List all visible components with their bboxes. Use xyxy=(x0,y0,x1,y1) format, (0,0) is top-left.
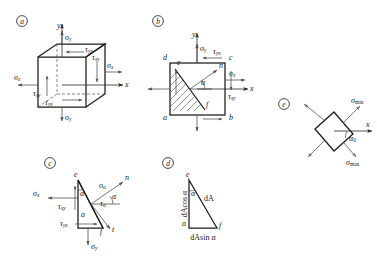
panel-c-tag-label: c xyxy=(48,159,52,168)
sigma-x-label-c: σx xyxy=(33,189,40,198)
panel-c: c e a f α n α σα t τα xyxy=(33,158,129,251)
tau-xy-left-label-a: τxy xyxy=(33,89,41,98)
panel-d-tag: d xyxy=(163,158,174,169)
vertex-c-label-b: c xyxy=(229,53,233,62)
tau-yx-bottom-label-a: τyx xyxy=(45,98,53,107)
tau-yx-top-label-b: τyx xyxy=(213,47,221,56)
principal-stress-element xyxy=(315,112,353,151)
sigma-x-right-label-b: σx xyxy=(229,69,236,78)
hatching-b xyxy=(171,72,201,111)
sigma-x-right-label-a: σx xyxy=(107,61,114,70)
stress-element-figure: a y x σy σy xyxy=(0,0,377,265)
vertical-area-label-d: dAcos α xyxy=(180,190,189,217)
sigma-max-arrow-e xyxy=(344,143,356,157)
sigma-min-arrow-opposite-e xyxy=(308,141,324,157)
vertex-b-label-b: b xyxy=(229,113,233,122)
alpha0-label-e: α0 xyxy=(349,134,356,143)
inclined-section-ef xyxy=(175,69,205,110)
axis-y-label-a: y xyxy=(56,21,61,30)
horizontal-area-label-d: dAsin α xyxy=(190,233,216,242)
hypotenuse-area-label-d: dA xyxy=(204,194,214,203)
vertex-e-label-b: e xyxy=(177,58,181,67)
alpha-face-label-c: α xyxy=(112,192,117,201)
panel-e: e x α0 σmin σmax xyxy=(279,96,372,167)
tau-xy-right-label-a: τxy xyxy=(92,53,100,62)
normal-n-label-c: n xyxy=(125,173,129,182)
alpha0-arc-e xyxy=(345,131,347,138)
tangent-t-label-c: t xyxy=(112,225,115,234)
cube-hidden-edges xyxy=(57,44,105,94)
axis-x-label-e: x xyxy=(365,120,370,129)
area-triangle-aef xyxy=(189,180,217,228)
sigma-y-top-label-b: σy xyxy=(200,44,207,53)
panel-e-tag: e xyxy=(279,99,290,110)
vertex-a-label-c: a xyxy=(81,210,85,219)
panel-a-tag: a xyxy=(17,16,28,27)
tau-yx-label-c: τyx xyxy=(60,219,68,228)
vertex-e-label-c: e xyxy=(74,170,78,179)
stress-cube xyxy=(38,44,105,107)
panel-a-tag-label: a xyxy=(20,17,24,26)
tau-xy-label-c: τxy xyxy=(58,202,66,211)
panel-b-tag-label: b xyxy=(156,17,160,26)
normal-n-label-b: n xyxy=(219,61,223,70)
sigma-y-label-c: σy xyxy=(91,242,98,251)
sigma-min-label-e: σmin xyxy=(351,96,364,105)
sigma-x-left-label-a: σx xyxy=(14,73,21,82)
vertex-a-label-d: a xyxy=(182,219,186,228)
panel-b: b n α xyxy=(148,16,254,131)
sigma-alpha-label-c: σα xyxy=(99,181,106,190)
sigma-max-arrow-opposite-e xyxy=(304,104,324,120)
axis-x-label-b: x xyxy=(249,84,254,93)
sigma-y-top-label-a: σy xyxy=(65,33,72,42)
panel-a: a y x σy σy xyxy=(14,16,129,122)
axis-x-label-a: x xyxy=(124,80,129,89)
vertex-f-label-b: f xyxy=(206,100,210,109)
figure-canvas: a y x σy σy xyxy=(0,0,377,265)
vertex-d-label-b: d xyxy=(163,53,168,62)
sigma-min-arrow-e xyxy=(344,106,360,122)
panel-b-tag: b xyxy=(153,16,164,27)
panel-d-tag-label: d xyxy=(166,159,170,168)
normal-n-arrow-c xyxy=(91,182,123,204)
vertex-a-label-b: a xyxy=(163,113,167,122)
panel-d: d e a f α dA dAcos α dAsin α xyxy=(163,158,223,242)
sigma-y-bottom-label-a: σy xyxy=(65,113,72,122)
alpha-label-b: α xyxy=(201,78,206,87)
vertex-f-label-d: f xyxy=(219,221,223,230)
axis-y-label-b: y xyxy=(191,30,196,39)
tau-xy-right-label-b: τxy xyxy=(228,92,236,101)
tau-alpha-label-c: τα xyxy=(100,199,106,208)
panel-c-tag: c xyxy=(45,158,56,169)
panel-e-tag-label: e xyxy=(282,100,286,109)
sigma-max-label-e: σmax xyxy=(346,158,360,167)
vertex-e-label-d: e xyxy=(186,170,190,179)
